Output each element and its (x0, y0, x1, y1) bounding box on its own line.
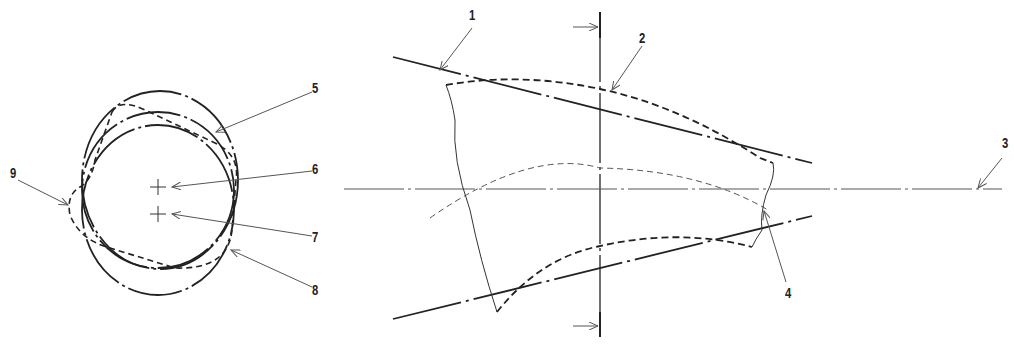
crosshair-6 (150, 179, 166, 195)
leader-arrow-5 (216, 92, 312, 132)
technical-diagram (0, 0, 1014, 364)
crosshair-7 (150, 206, 166, 222)
lower-profile-curve (497, 237, 752, 312)
label-2: 2 (639, 29, 645, 46)
leader-arrow-9 (18, 180, 68, 205)
leader-arrow-8 (231, 250, 312, 287)
upper-taper-line-1 (393, 57, 812, 163)
leader-arrow-6 (172, 171, 312, 187)
inner-curve-4 (430, 164, 768, 218)
upper-profile-curve-2 (446, 79, 773, 163)
leader-arrow-4 (764, 211, 786, 282)
label-4: 4 (785, 284, 791, 301)
left-cross-section-view (18, 91, 312, 295)
label-5: 5 (312, 79, 318, 96)
leader-arrow-3 (978, 158, 1002, 188)
label-9: 9 (10, 164, 16, 181)
label-8: 8 (312, 281, 318, 298)
leader-arrow-7 (172, 214, 312, 236)
label-3: 3 (1002, 134, 1008, 151)
leader-arrow-1 (440, 28, 472, 70)
label-7: 7 (312, 228, 318, 245)
label-1: 1 (469, 6, 475, 23)
dashed-lobed-shape-9 (69, 104, 236, 268)
lower-taper-line (393, 216, 812, 319)
left-break-line (446, 85, 497, 312)
right-break-line (752, 163, 774, 247)
label-6: 6 (312, 160, 318, 177)
right-side-view (344, 12, 1002, 337)
leader-arrow-2 (612, 46, 642, 90)
